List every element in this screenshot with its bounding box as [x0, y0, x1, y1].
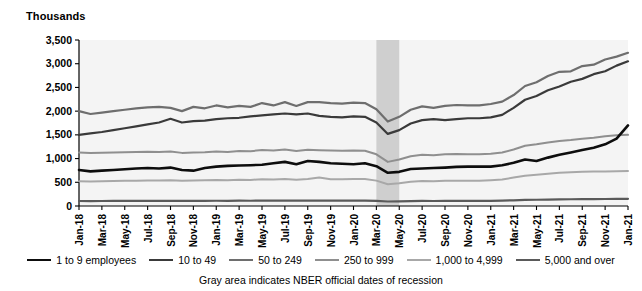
legend-swatch-icon — [315, 259, 339, 261]
x-tick-label: Jul-20 — [417, 214, 428, 243]
legend-swatch-icon — [27, 259, 51, 261]
legend-item[interactable]: 250 to 999 — [315, 255, 394, 266]
x-tick-label: Nov-19 — [326, 214, 337, 248]
legend-swatch-icon — [516, 259, 540, 261]
chart-svg: 05001,0001,5002,0002,5003,0003,500Jan-18… — [0, 0, 642, 291]
x-tick-label: Jul-21 — [554, 214, 565, 243]
x-tick-label: Sep-20 — [440, 214, 451, 247]
x-tick-label: Jul-19 — [280, 214, 291, 243]
x-tick-label: Sep-21 — [577, 214, 588, 247]
legend-item-label: 1,000 to 4,999 — [436, 255, 503, 266]
x-tick-label: Mar-20 — [371, 214, 382, 247]
x-tick-label: Nov-18 — [188, 214, 199, 248]
y-tick-label: 3,000 — [46, 57, 72, 69]
legend-item[interactable]: 1,000 to 4,999 — [407, 255, 503, 266]
legend-item-label: 50 to 249 — [258, 255, 302, 266]
legend-item[interactable]: 1 to 9 employees — [27, 255, 136, 266]
legend-swatch-icon — [407, 259, 431, 261]
x-tick-label: Nov-21 — [600, 214, 611, 248]
y-tick-label: 1,000 — [46, 152, 72, 164]
x-tick-label: Jan-18 — [74, 214, 85, 246]
legend-item-label: 250 to 999 — [344, 255, 394, 266]
x-tick-label: Jan-21 — [623, 214, 634, 246]
legend-item[interactable]: 5,000 and over — [516, 255, 615, 266]
legend-item[interactable]: 50 to 249 — [229, 255, 302, 266]
x-tick-label: Mar-18 — [97, 214, 108, 247]
y-tick-label: 1,500 — [46, 128, 72, 140]
x-tick-label: Nov-20 — [463, 214, 474, 248]
chart-legend: 1 to 9 employees10 to 4950 to 249250 to … — [0, 255, 642, 266]
x-tick-label: Jan-20 — [349, 214, 360, 246]
legend-swatch-icon — [229, 259, 253, 261]
x-tick-label: Jan-19 — [211, 214, 222, 246]
x-tick-label: Jul-18 — [143, 214, 154, 243]
x-tick-label: Sep-19 — [303, 214, 314, 247]
chart-plot-area: 05001,0001,5002,0002,5003,0003,500Jan-18… — [0, 0, 642, 291]
x-tick-label: Jan-21 — [486, 214, 497, 246]
recession-footnote: Gray area indicates NBER official dates … — [0, 274, 642, 286]
chart-page: Thousands 05001,0001,5002,0002,5003,0003… — [0, 0, 642, 291]
x-tick-label: Mar-21 — [509, 214, 520, 247]
x-tick-label: Mar-19 — [234, 214, 245, 247]
y-tick-label: 2,000 — [46, 105, 72, 117]
legend-item-label: 5,000 and over — [545, 255, 615, 266]
legend-item[interactable]: 10 to 49 — [149, 255, 216, 266]
x-tick-label: May-18 — [120, 214, 131, 248]
y-tick-label: 3,500 — [46, 34, 72, 46]
legend-swatch-icon — [149, 259, 173, 261]
y-tick-label: 500 — [54, 176, 72, 188]
x-tick-label: Sep-18 — [166, 214, 177, 247]
x-tick-label: May-21 — [532, 214, 543, 248]
x-tick-label: May-19 — [257, 214, 268, 248]
legend-item-label: 10 to 49 — [178, 255, 216, 266]
y-tick-label: 0 — [66, 200, 72, 212]
x-tick-label: May-20 — [394, 214, 405, 248]
y-tick-label: 2,500 — [46, 81, 72, 93]
legend-item-label: 1 to 9 employees — [56, 255, 136, 266]
